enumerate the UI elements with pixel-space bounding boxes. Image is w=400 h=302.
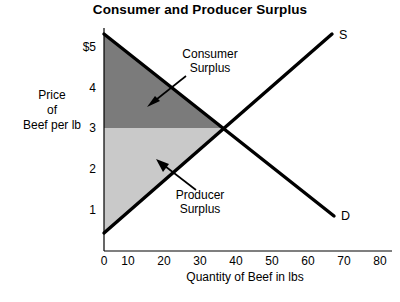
y-tick-5: $5: [62, 40, 96, 54]
x-tick-70: 70: [329, 254, 359, 268]
y-axis-label-line2: of: [8, 103, 96, 118]
demand-curve-label: D: [341, 209, 350, 223]
consumer-surplus-annotation: Consumer Surplus: [162, 47, 258, 75]
x-tick-30: 30: [185, 254, 215, 268]
x-tick-60: 60: [293, 254, 323, 268]
surplus-chart: Consumer and Producer Surplus $5 4 3 2 1…: [0, 0, 400, 302]
consumer-surplus-annotation-line2: Surplus: [162, 61, 258, 75]
x-tick-20: 20: [149, 254, 179, 268]
y-axis-label-line3: Beef per lb: [8, 118, 96, 133]
y-axis-label-line1: Price: [8, 88, 96, 103]
x-axis-label: Quantity of Beef in lbs: [100, 270, 390, 284]
x-tick-50: 50: [257, 254, 287, 268]
y-tick-1: 1: [62, 203, 96, 217]
supply-curve-label: S: [339, 28, 347, 42]
x-tick-10: 10: [113, 254, 143, 268]
producer-surplus-annotation-line2: Surplus: [152, 202, 248, 216]
producer-surplus-annotation: Producer Surplus: [152, 188, 248, 216]
x-tick-80: 80: [365, 254, 395, 268]
y-tick-2: 2: [62, 162, 96, 176]
producer-surplus-annotation-line1: Producer: [152, 188, 248, 202]
x-tick-40: 40: [221, 254, 251, 268]
consumer-surplus-annotation-line1: Consumer: [162, 47, 258, 61]
y-axis-label: Price of Beef per lb: [8, 88, 96, 133]
